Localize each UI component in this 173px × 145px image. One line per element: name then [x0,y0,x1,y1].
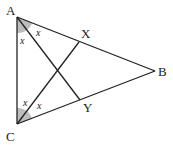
label-x: X [81,26,91,41]
diagram-canvas: A B C X Y x x x x [0,0,173,145]
label-c: C [6,129,15,144]
label-b: B [158,64,167,79]
triangle-diagram: A B C X Y x x x x [0,0,173,145]
angle-label-a-lower: x [19,35,25,46]
angle-label-a-upper: x [35,27,41,38]
angle-label-c-upper: x [22,97,28,108]
label-a: A [6,3,16,18]
label-y: Y [83,100,93,115]
angle-label-c-lower: x [36,100,42,111]
